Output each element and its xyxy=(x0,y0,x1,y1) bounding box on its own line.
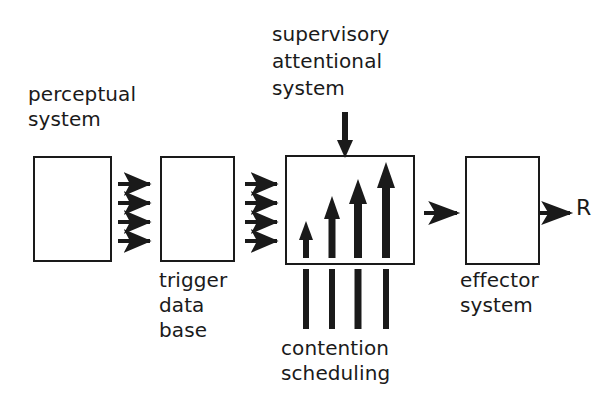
supervisory-attentional-system-label-line3: system xyxy=(272,76,345,101)
perceptual-system-label-line2: system xyxy=(28,107,101,132)
contention-scheduling-label-line1: contention xyxy=(281,336,389,361)
effector-system-label-line1: effector xyxy=(460,268,539,293)
perceptual-to-trigger-arrows xyxy=(118,184,150,241)
perceptual-system-box xyxy=(33,156,112,262)
contention-scheduling-box xyxy=(285,155,415,265)
effector-system-box xyxy=(465,156,540,265)
trigger-data-base-box xyxy=(160,156,235,262)
diagram-canvas: perceptual system trigger data base supe… xyxy=(0,0,601,410)
supervisory-attentional-system-label-line2: attentional xyxy=(272,49,382,74)
response-label: R xyxy=(576,196,591,220)
supervisory-attentional-system-label-line1: supervisory xyxy=(272,22,390,47)
supervisory-down-arrow xyxy=(337,112,353,158)
trigger-to-contention-arrows xyxy=(245,184,277,241)
trigger-data-base-label-line1: trigger xyxy=(159,268,227,293)
trigger-data-base-label-line2: data xyxy=(159,293,204,318)
trigger-data-base-label-line3: base xyxy=(159,318,207,343)
effector-system-label-line2: system xyxy=(460,293,533,318)
contention-scheduling-stems xyxy=(306,269,386,329)
contention-scheduling-label-line2: scheduling xyxy=(281,361,390,386)
perceptual-system-label-line1: perceptual xyxy=(28,82,136,107)
